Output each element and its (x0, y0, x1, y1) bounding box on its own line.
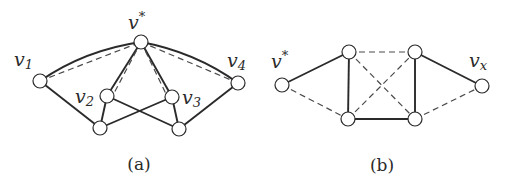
label-a-v1: v1 (14, 48, 33, 72)
caption-a: (a) (127, 154, 150, 174)
node-b-bottom-left (341, 112, 355, 126)
edge-vstar-bl-dashed (282, 85, 348, 119)
node-a-v2 (100, 89, 114, 103)
label-a-v3: v3 (182, 86, 201, 110)
label-a-v4: v4 (227, 49, 246, 73)
edge-v1-vstar-dashed (40, 42, 141, 81)
edge-bl-tr-dashed (348, 52, 415, 119)
node-a-v1 (33, 74, 47, 88)
edge-br-vx-dashed (415, 86, 482, 119)
panel-b: v* vx (b) (271, 45, 489, 175)
node-b-top-left (342, 45, 356, 59)
edge-tl-bl (348, 52, 349, 119)
label-b-vstar: v* (271, 48, 289, 72)
edge-vstar-v4-dashed (141, 42, 238, 83)
edge-vstar-v2-solid (107, 42, 141, 96)
edge-vstar-v3-solid (141, 42, 172, 97)
graph-figure: v* v1 v2 v3 v4 (a) v* vx (b) (0, 0, 519, 194)
node-a-bottom-right (172, 122, 186, 136)
edge-vstar-tl (282, 52, 349, 85)
node-b-top-right (408, 45, 422, 59)
panel-a: v* v1 v2 v3 v4 (a) (14, 9, 246, 174)
caption-b: (b) (370, 155, 394, 175)
node-b-vstar (275, 78, 289, 92)
node-a-v4 (231, 76, 245, 90)
node-b-vx (475, 79, 489, 93)
node-a-vstar (134, 35, 148, 49)
node-b-bottom-right (408, 112, 422, 126)
node-a-bottom-left (93, 121, 107, 135)
node-a-v3 (165, 90, 179, 104)
label-a-vstar: v* (128, 9, 146, 33)
label-a-v2: v2 (75, 85, 94, 109)
label-b-vx: vx (469, 49, 488, 73)
